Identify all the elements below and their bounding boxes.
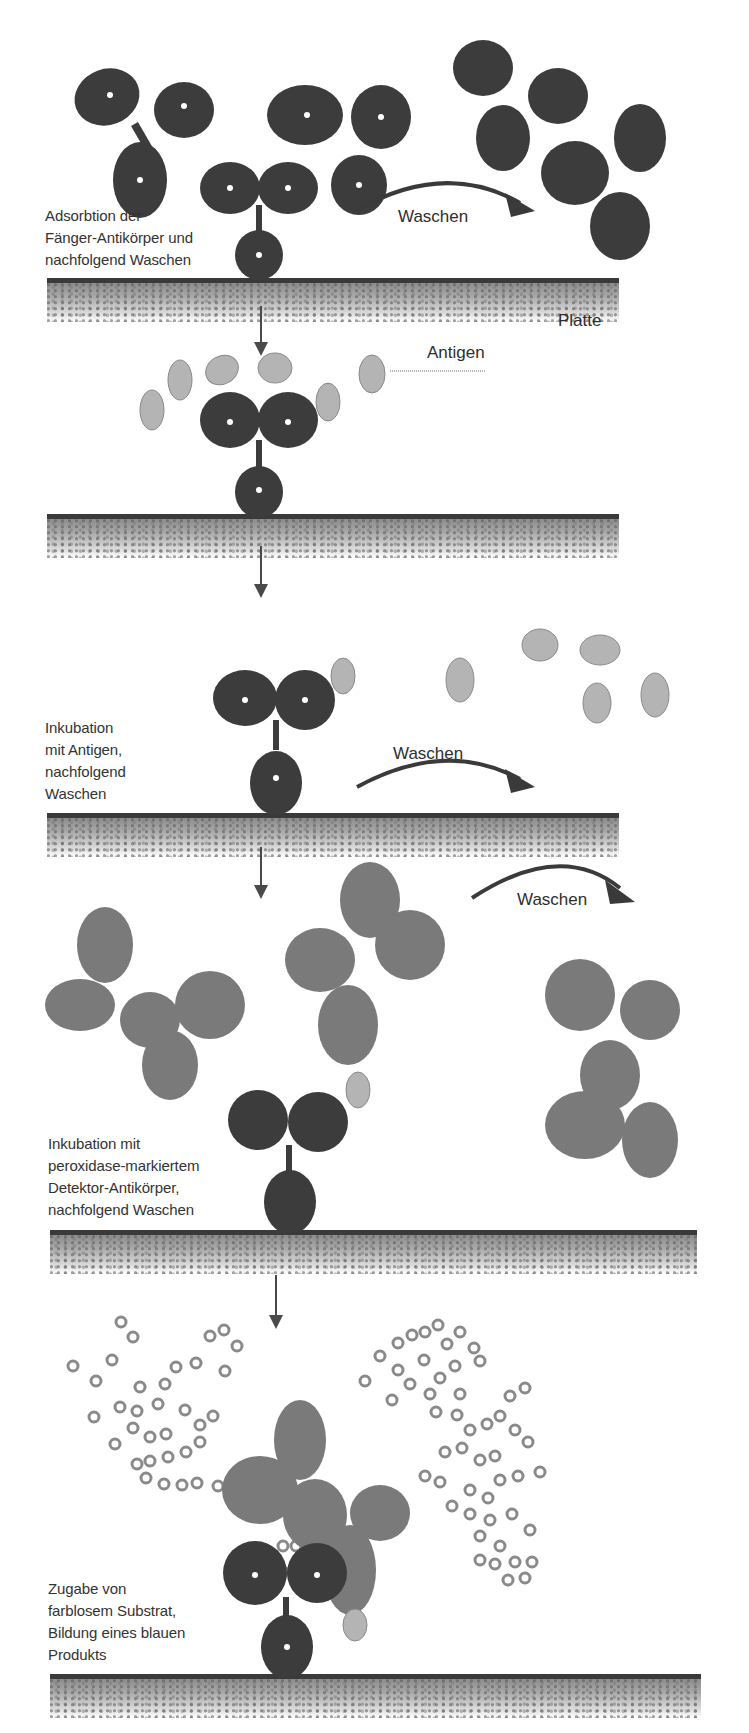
wash-arrow-icon: [355, 165, 595, 225]
antibody-bound-capture: [200, 160, 320, 280]
plate-label: Platte: [558, 311, 601, 331]
antibody-capture-with-antigen: [213, 658, 363, 818]
wash-label-4: Waschen: [517, 890, 587, 910]
step-1-description: Adsorbtion der Fänger-Antikörper und nac…: [45, 205, 193, 271]
antigen-label: Antigen: [427, 343, 485, 363]
step-arrow-down-icon: [260, 847, 262, 897]
antibody-capture-bound: [225, 1535, 365, 1680]
step-3-description: Inkubation mit Antigen, nachfolgend Wasc…: [45, 717, 126, 805]
wash-label-1: Waschen: [398, 207, 468, 227]
wash-label-3: Waschen: [393, 744, 463, 764]
antibody-detection-free: [270, 860, 480, 1080]
plate-surface-1: [47, 278, 619, 322]
step-arrow-down-icon: [260, 546, 262, 596]
wash-arrow-icon: [355, 743, 595, 803]
antibody-detection-washed-away: [525, 955, 695, 1185]
antigens-washed-away: [430, 625, 690, 735]
plate-surface-5: [50, 1674, 701, 1718]
antibody-bound-capture: [200, 390, 320, 520]
plate-surface-3: [47, 813, 619, 857]
step-5-description: Zugabe von farblosem Substrat, Bildung e…: [48, 1578, 185, 1666]
antigen-label-leader: [390, 370, 490, 374]
step-4-description: Inkubation mit peroxidase-markiertem Det…: [48, 1133, 199, 1221]
antibody-capture-antigen-complex: [230, 1070, 380, 1235]
plate-surface-4: [50, 1230, 697, 1274]
plate-surface-2: [47, 514, 619, 558]
